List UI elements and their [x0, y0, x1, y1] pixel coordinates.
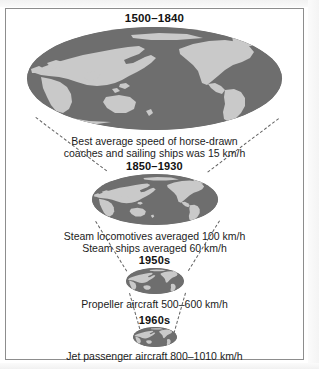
- page-edge-bottom: [0, 363, 319, 369]
- stage-heading-1850-1930: 1850–1930: [6, 160, 303, 172]
- world-globe-tiny: [133, 327, 177, 347]
- stage-caption-1850-1930-line1: Steam locomotives averaged 100 km/h: [6, 230, 303, 242]
- stage-caption-1500-1840-line1: Best average speed of horse-drawn: [6, 135, 303, 147]
- world-globe-medium: [92, 174, 218, 225]
- page-edge-top: [0, 0, 319, 7]
- stage-caption-1850-1930-line2: Steam ships averaged 60 km/h: [6, 242, 303, 254]
- shrinking-world-figure: 1500–1840: [0, 0, 319, 369]
- world-globe-small: [126, 268, 184, 294]
- page-edge-right: [308, 0, 319, 369]
- world-globe-large: [27, 27, 282, 130]
- stage-caption-1950s-line1: Propeller aircraft 500–600 km/h: [6, 298, 303, 310]
- figure-panel: 1500–1840: [5, 8, 304, 360]
- stage-caption-1960s-line1: Jet passenger aircraft 800–1010 km/h: [6, 350, 303, 362]
- stage-heading-1500-1840: 1500–1840: [6, 12, 303, 24]
- stage-caption-1500-1840-line2: coaches and sailing ships was 15 km/h: [6, 147, 303, 159]
- stage-heading-1960s: 1960s: [6, 314, 303, 326]
- stage-heading-1950s: 1950s: [6, 254, 303, 266]
